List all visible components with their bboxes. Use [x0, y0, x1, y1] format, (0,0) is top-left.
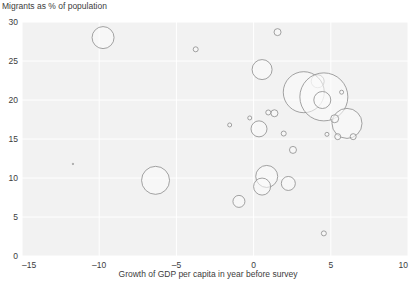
bubble-point — [248, 116, 252, 120]
bubble-point — [335, 134, 341, 140]
bubble-chart: Migrants as % of population 051015202530… — [0, 0, 416, 281]
x-tick-label: 5 — [328, 260, 333, 270]
y-tick-label: 5 — [13, 212, 18, 222]
bubble-point — [321, 231, 326, 236]
y-tick-label: 0 — [13, 251, 18, 261]
bubble-point — [266, 110, 271, 115]
x-axis-title: Growth of GDP per capita in year before … — [119, 269, 299, 279]
bubble-point — [281, 176, 295, 190]
y-axis-ticks: 051015202530 — [9, 17, 19, 261]
bubble-point — [271, 110, 278, 117]
bubble-point — [254, 178, 271, 195]
bubble-point — [193, 47, 198, 52]
x-tick-label: –10 — [92, 260, 106, 270]
bubble-point — [340, 90, 344, 94]
bubble-point — [274, 29, 281, 36]
bubble-point — [350, 134, 356, 140]
bubble-point — [72, 163, 73, 164]
bubble-point — [281, 131, 286, 136]
y-tick-label: 30 — [9, 17, 19, 27]
x-tick-label: –15 — [22, 260, 36, 270]
bubble-point — [92, 27, 114, 49]
bubble-point — [142, 166, 170, 194]
y-axis-title: Migrants as % of population — [2, 1, 107, 11]
bubble-point — [325, 132, 329, 136]
y-tick-label: 20 — [9, 95, 19, 105]
y-tick-label: 25 — [9, 56, 19, 66]
bubble-point — [233, 195, 245, 207]
bubble-point — [251, 121, 267, 137]
bubble-point — [228, 123, 232, 127]
bubble-point — [252, 60, 272, 80]
bubble-point — [331, 115, 339, 123]
chart-svg: Migrants as % of population 051015202530… — [0, 0, 416, 281]
y-tick-label: 10 — [9, 173, 19, 183]
bubble-point — [289, 146, 296, 153]
x-tick-label: 10 — [399, 260, 409, 270]
y-tick-label: 15 — [9, 134, 19, 144]
bubble-point — [314, 92, 331, 109]
